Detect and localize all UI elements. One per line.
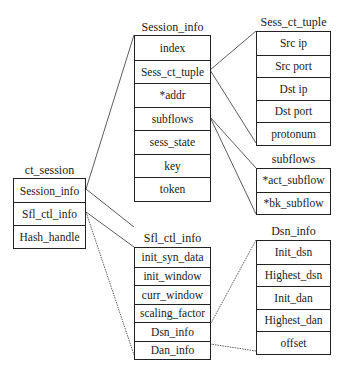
field-src-port: Src port — [257, 55, 330, 78]
link-dan-info — [210, 344, 256, 351]
field-init-window: init_window — [135, 267, 210, 286]
field-init-syn-data: init_syn_data — [135, 248, 210, 267]
field-dan-info: Dan_info — [135, 341, 210, 360]
link-sess-ct-tuple — [210, 31, 256, 70]
struct-title: ct_session — [13, 163, 86, 178]
link-dsn-info — [210, 240, 256, 325]
field-highest-dan: Highest_dan — [257, 309, 330, 332]
struct-box: *act_subflow *bk_subflow — [256, 168, 331, 215]
link-subflows — [210, 117, 256, 168]
field-sfl-ctl-info: Sfl_ctl_info — [14, 202, 85, 225]
struct-title: Sess_ct_tuple — [256, 15, 331, 30]
field-dst-ip: Dst ip — [257, 77, 330, 100]
field-offset: offset — [257, 331, 330, 354]
struct-title: Session_info — [134, 20, 211, 35]
field-key: key — [135, 154, 210, 178]
field-act-subflow: *act_subflow — [257, 169, 330, 192]
field-subflows: subflows — [135, 107, 210, 131]
link-session-info — [86, 35, 134, 189]
struct-box: Init_dsn Highest_dsn Init_dan Highest_da… — [256, 240, 331, 355]
field-dst-port: Dst port — [257, 100, 330, 123]
struct-box: init_syn_data init_window curr_window sc… — [134, 247, 211, 360]
field-init-dan: Init_dan — [257, 286, 330, 309]
field-hash-handle: Hash_handle — [14, 225, 85, 248]
struct-title: Dsn_info — [256, 224, 331, 239]
field-sess-state: sess_state — [135, 130, 210, 154]
struct-box: index Sess_ct_tuple *addr subflows sess_… — [134, 35, 211, 202]
field-addr: *addr — [135, 83, 210, 107]
field-scaling-factor: scaling_factor — [135, 304, 210, 323]
link-sfl-ctl-info — [86, 212, 134, 247]
struct-title: Sfl_ctl_info — [134, 231, 211, 246]
field-index: index — [135, 36, 210, 60]
field-dsn-info: Dsn_info — [135, 322, 210, 341]
field-sess-ct-tuple: Sess_ct_tuple — [135, 60, 210, 84]
field-bk-subflow: *bk_subflow — [257, 192, 330, 215]
field-protonum: protonum — [257, 122, 330, 145]
field-src-ip: Src ip — [257, 32, 330, 55]
field-token: token — [135, 177, 210, 201]
field-curr-window: curr_window — [135, 285, 210, 304]
field-highest-dsn: Highest_dsn — [257, 264, 330, 287]
struct-box: Src ip Src port Dst ip Dst port protonum — [256, 31, 331, 146]
struct-title: subflows — [256, 152, 331, 167]
struct-box: Session_info Sfl_ctl_info Hash_handle — [13, 178, 86, 249]
field-session-info: Session_info — [14, 179, 85, 202]
field-init-dsn: Init_dsn — [257, 241, 330, 264]
